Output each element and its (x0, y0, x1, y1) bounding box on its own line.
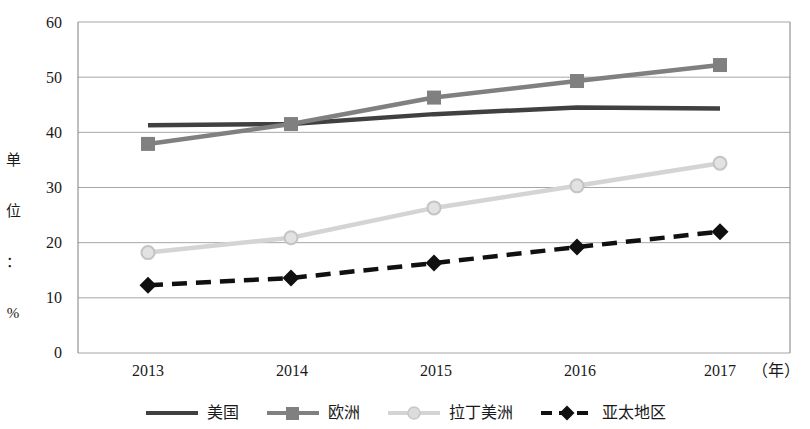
data-point-marker (427, 91, 441, 105)
legend-label: 亚太地区 (602, 404, 666, 422)
gridlines (78, 22, 790, 353)
legend-key-europe (265, 405, 321, 421)
legend-item-usa[interactable]: 美国 (144, 404, 239, 422)
data-point-marker (284, 117, 298, 131)
data-point-marker (283, 269, 300, 286)
data-point-marker (570, 74, 584, 88)
legend-item-asia-pacific[interactable]: 亚太地区 (539, 404, 666, 422)
data-point-marker (714, 157, 727, 170)
series-layer (140, 58, 729, 294)
legend-item-latin-america[interactable]: 拉丁美洲 (386, 404, 513, 422)
legend-key-usa (144, 405, 200, 421)
data-point-marker (285, 231, 298, 244)
data-point-marker (142, 246, 155, 259)
data-point-marker (428, 201, 441, 214)
series-4 (140, 223, 729, 294)
data-point-marker (713, 58, 727, 72)
plot-area (0, 0, 810, 429)
data-point-marker (569, 239, 586, 256)
data-point-marker (141, 137, 155, 151)
data-point-marker (571, 179, 584, 192)
data-point-marker (712, 223, 729, 240)
data-point-marker (140, 277, 157, 294)
series-3 (142, 157, 727, 259)
data-point-marker (426, 255, 443, 272)
series-line (148, 108, 720, 126)
legend-key-asia-pacific (539, 405, 595, 421)
legend-label: 拉丁美洲 (449, 404, 513, 422)
legend-label: 欧洲 (328, 404, 360, 422)
legend-key-latin-america (386, 405, 442, 421)
series-1 (148, 108, 720, 126)
series-2 (141, 58, 727, 151)
legend-item-europe[interactable]: 欧洲 (265, 404, 360, 422)
legend-label: 美国 (207, 404, 239, 422)
legend: 美国 欧洲 拉丁美洲 亚太地区 (0, 398, 810, 428)
line-chart: 单 位 ： % 60 50 40 30 20 10 0 2013 2014 20… (0, 0, 810, 429)
